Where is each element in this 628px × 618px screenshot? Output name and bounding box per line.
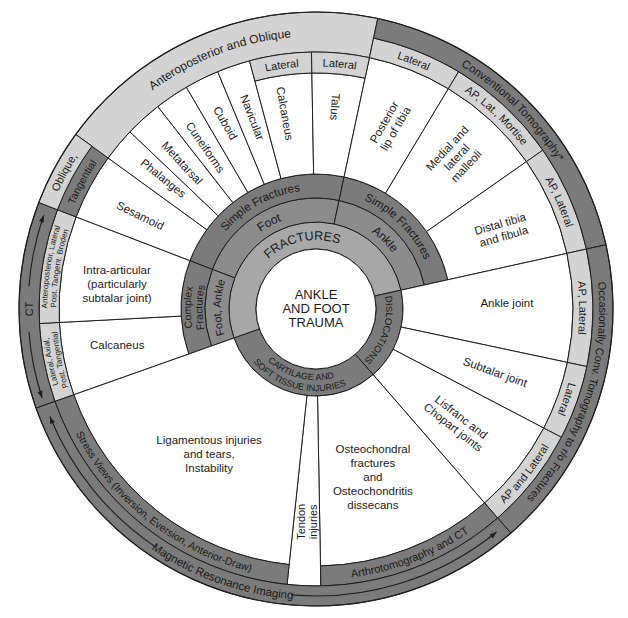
segment-label: Ligamentous injuries xyxy=(156,434,262,446)
label-group: Intra-articular(particularlysubtalar joi… xyxy=(82,264,151,304)
segment-label: Talus xyxy=(328,93,342,121)
segment-label: Calcaneus xyxy=(90,339,145,351)
center-title-line: AND FOOT xyxy=(282,301,349,316)
label-group: Talus xyxy=(328,93,342,121)
segment-label: Osteochondritis xyxy=(333,485,413,497)
label-group: Tendoninjuries xyxy=(295,504,320,540)
segment-label: (particularly xyxy=(87,278,147,290)
segment-label: Tendon xyxy=(295,504,307,540)
segment-label: dissecans xyxy=(347,499,398,511)
label-group: Ankle joint xyxy=(480,297,534,309)
segment-label: CT xyxy=(23,301,35,316)
segment-label: fractures xyxy=(351,457,396,469)
segment-label: Intra-articular xyxy=(83,264,151,276)
segment-label: injuries xyxy=(307,504,319,539)
segment-label: subtalar joint) xyxy=(82,292,151,304)
segment-label: Osteochondral xyxy=(335,443,410,455)
center-hub: ANKLE AND FOOT TRAUMA xyxy=(256,249,376,369)
segment-label: and tears, xyxy=(183,448,234,460)
center-title-line: TRAUMA xyxy=(289,315,344,330)
center-title-line: ANKLE xyxy=(295,287,338,302)
label-group: Calcaneus xyxy=(90,339,145,351)
segment-label: AP, Lateral xyxy=(576,280,589,335)
segment-label: and xyxy=(363,471,382,483)
segment-label: Ankle joint xyxy=(480,297,534,309)
ankle-foot-trauma-diagram: FRACTURESDISLOCATIONSCARTILAGE ANDSOFT T… xyxy=(0,0,628,618)
segment-label: Instability xyxy=(185,462,233,474)
